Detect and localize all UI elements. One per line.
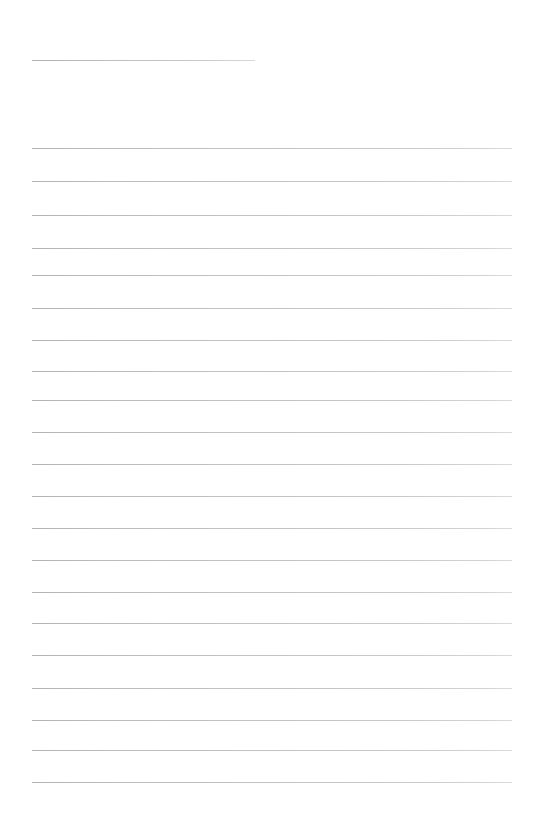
ruled-line (32, 400, 512, 401)
ruled-line (32, 340, 512, 341)
ruled-line (32, 148, 512, 149)
ruled-line (32, 782, 512, 783)
ruled-line (32, 750, 512, 751)
ruled-lines-area (0, 0, 542, 836)
ruled-line (32, 432, 512, 433)
ruled-line (32, 308, 512, 309)
ruled-line (32, 560, 512, 561)
ruled-line (32, 248, 512, 249)
ruled-line (32, 464, 512, 465)
ruled-line (32, 592, 512, 593)
ruled-line (32, 215, 512, 216)
ruled-line (32, 496, 512, 497)
ruled-line (32, 655, 512, 656)
ruled-line (32, 720, 512, 721)
ruled-line (32, 275, 512, 276)
ruled-line (32, 181, 512, 182)
document-page (0, 0, 542, 836)
ruled-line (32, 371, 512, 372)
ruled-line (32, 623, 512, 624)
ruled-line (32, 528, 512, 529)
ruled-line (32, 688, 512, 689)
